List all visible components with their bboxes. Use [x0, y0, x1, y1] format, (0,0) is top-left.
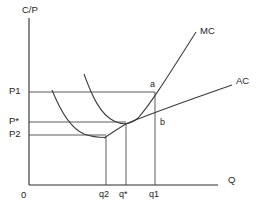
- y-axis-label: C/P: [22, 5, 38, 15]
- origin-label: 0: [21, 190, 26, 200]
- mc-curve: [84, 32, 196, 124]
- point-label-b: b: [160, 118, 165, 127]
- price-label-p2: P2: [9, 129, 21, 139]
- series-label-mc: MC: [200, 26, 215, 36]
- srac-curve: [52, 90, 106, 138]
- quantity-label-q2: q2: [99, 190, 109, 199]
- cost-price-chart: C/P Q 0 P1 P* P2 q2 q* q1 MC AC a b: [0, 0, 268, 212]
- price-label-pstar: P*: [9, 116, 19, 126]
- series-label-ac: AC: [236, 76, 249, 86]
- price-label-p1: P1: [9, 86, 21, 96]
- quantity-label-q1: q1: [149, 190, 159, 199]
- x-axis-label: Q: [228, 175, 235, 185]
- point-label-a: a: [150, 80, 155, 89]
- quantity-label-qstar: q*: [119, 190, 128, 199]
- ac-curve: [104, 85, 232, 138]
